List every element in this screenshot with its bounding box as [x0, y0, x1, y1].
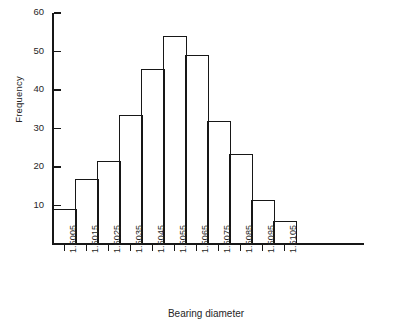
x-tick-mark [64, 245, 65, 251]
y-tick-label: 20 [18, 160, 44, 171]
x-tick-label: 1.5045 [156, 225, 166, 253]
x-tick-mark [240, 245, 241, 251]
x-tick-mark [86, 245, 87, 251]
x-axis-title: Bearing diameter [0, 308, 412, 319]
histogram-bar [185, 55, 209, 244]
x-tick-label: 1.5005 [68, 225, 78, 253]
x-tick-mark [152, 245, 153, 251]
x-tick-label: 1.5065 [200, 225, 210, 253]
x-tick-label: 1.5025 [112, 225, 122, 253]
x-tick-mark [174, 245, 175, 251]
x-tick-mark [218, 245, 219, 251]
x-tick-label: 1.5095 [266, 225, 276, 253]
x-tick-label: 1.5105 [288, 225, 298, 253]
x-tick-label: 1.5085 [244, 225, 254, 253]
y-tick-label: 50 [18, 45, 44, 56]
x-tick-label: 1.5035 [134, 225, 144, 253]
y-tick-label: 10 [18, 199, 44, 210]
x-tick-label: 1.5055 [178, 225, 188, 253]
plot-area [53, 13, 361, 244]
x-tick-mark [130, 245, 131, 251]
histogram-bar [141, 69, 165, 244]
y-tick-label: 30 [18, 122, 44, 133]
x-tick-label: 1.5075 [222, 225, 232, 253]
histogram-bar [163, 36, 187, 244]
x-tick-mark [262, 245, 263, 251]
x-tick-label: 1.5015 [90, 225, 100, 253]
histogram-figure: Frequency 102030405060 1.50051.50151.502… [0, 0, 412, 328]
x-tick-mark [196, 245, 197, 251]
y-tick-label: 40 [18, 83, 44, 94]
y-tick-label: 60 [18, 6, 44, 17]
x-tick-mark [284, 245, 285, 251]
x-tick-mark [108, 245, 109, 251]
y-axis-title: Frequency [13, 50, 24, 150]
